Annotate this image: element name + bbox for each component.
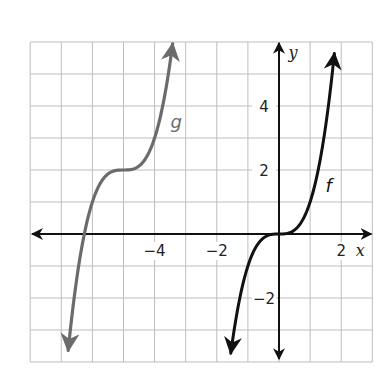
x-axis-label: x: [356, 241, 365, 260]
curves: [68, 44, 334, 353]
grid-lines: [30, 42, 372, 362]
curve-f: [231, 54, 335, 354]
y-tick-label: 4: [259, 98, 269, 116]
y-tick-label: 2: [259, 162, 269, 180]
graph-figure: −4−2242−2xygf: [0, 0, 391, 390]
x-tick-label: 2: [336, 242, 346, 260]
y-tick-label: −2: [253, 290, 275, 308]
curve-label-g: g: [171, 111, 182, 132]
curve-label-f: f: [325, 175, 334, 196]
axes: [32, 43, 371, 359]
curve-g: [68, 44, 173, 351]
x-tick-label: −2: [206, 242, 228, 260]
x-tick-label: −4: [144, 242, 166, 260]
y-axis-label: y: [287, 43, 298, 62]
